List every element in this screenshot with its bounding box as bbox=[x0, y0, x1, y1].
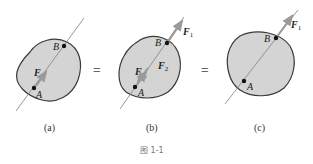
label-F: F bbox=[33, 67, 41, 78]
rigid-body bbox=[227, 32, 294, 96]
force-arrow-F1 bbox=[276, 16, 292, 38]
equals-sign-2: = bbox=[201, 62, 209, 77]
rigid-body bbox=[17, 39, 81, 101]
caption-b: (b) bbox=[146, 122, 158, 134]
equals-sign-1: = bbox=[93, 62, 101, 77]
label-A: A bbox=[35, 89, 43, 100]
caption-c: (c) bbox=[254, 122, 265, 134]
label-F1: F1 bbox=[182, 26, 194, 39]
label-A: A bbox=[137, 87, 145, 98]
panel-b: A B F F2 F1 (b) bbox=[119, 17, 194, 134]
point-A bbox=[242, 79, 246, 83]
label-F: F bbox=[134, 66, 142, 77]
figure-diagram: A B F (a) = A B F F2 F1 (b) = A B F1 (c)… bbox=[0, 0, 313, 164]
caption-a: (a) bbox=[44, 122, 55, 134]
panel-c: A B F1 (c) bbox=[225, 10, 302, 134]
point-A bbox=[133, 85, 137, 89]
rigid-body bbox=[119, 36, 180, 98]
label-B: B bbox=[53, 41, 59, 52]
point-B bbox=[62, 44, 66, 48]
point-B bbox=[165, 41, 169, 45]
label-B: B bbox=[155, 37, 161, 48]
label-A: A bbox=[246, 81, 254, 92]
panel-a: A B F (a) bbox=[16, 18, 84, 134]
label-F1: F1 bbox=[290, 19, 302, 32]
figure-caption: 图 1-1 bbox=[140, 146, 164, 155]
label-B: B bbox=[264, 33, 270, 44]
force-arrow-F1 bbox=[168, 21, 182, 42]
point-B bbox=[274, 36, 278, 40]
